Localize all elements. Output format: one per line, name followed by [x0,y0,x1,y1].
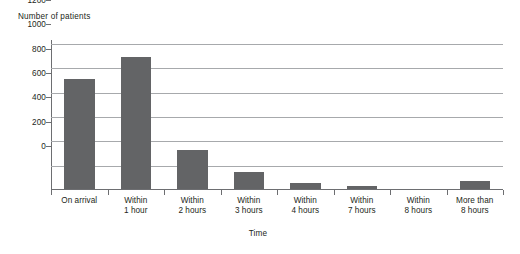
x-axis-tick-mark [108,190,109,195]
x-axis-category-label: Within3 hours [221,196,278,217]
x-axis-category-label-line2: 2 hours [164,206,221,216]
x-axis-category-label-line1: On arrival [61,196,97,205]
x-axis-category-label-line2: 3 hours [221,206,278,216]
y-axis-tick-label: 1000 [27,20,46,29]
y-axis-tick-label: 800 [32,44,46,53]
x-axis-category-label: More than8 hours [447,196,504,217]
y-axis-tick-label: 600 [32,69,46,78]
y-axis-tick-mark [46,0,51,1]
x-axis-category-label: Within2 hours [164,196,221,217]
x-axis-tick-mark [334,190,335,195]
bar[interactable] [64,79,95,190]
bar-slot [390,44,447,190]
x-axis-category-label-line1: Within [181,196,204,205]
x-axis-tick-mark [503,190,504,195]
x-axis-category-label-line1: Within [350,196,373,205]
bar[interactable] [234,172,265,190]
bar-slot [164,44,221,190]
x-axis-category-label: Within1 hour [108,196,165,217]
x-axis-category-label: Within8 hours [390,196,447,217]
bar-slot [447,44,504,190]
y-axis-tick-label: 400 [32,93,46,102]
x-axis-tick-mark [51,190,52,195]
x-axis-category-label-line2: 8 hours [390,206,447,216]
x-axis-category-label: Within4 hours [277,196,334,217]
x-axis-tick-mark [164,190,165,195]
y-axis-tick-labels: 020040060080010001200 [0,0,46,146]
bar[interactable] [177,150,208,190]
bar-slot [221,44,278,190]
x-axis-category-label-line1: Within [237,196,260,205]
y-axis-tick-label: 200 [32,117,46,126]
x-axis-category-label-line1: More than [456,196,493,205]
x-axis-category-label-line2: 1 hour [108,206,165,216]
x-axis-tick-mark [447,190,448,195]
plot-area [51,44,503,190]
bar-slot [108,44,165,190]
bar-slot [277,44,334,190]
x-axis-category-label-line1: Within [124,196,147,205]
x-axis-category-label-line1: Within [407,196,430,205]
x-axis-tick-mark [390,190,391,195]
bar-slot [51,44,108,190]
x-axis-category-label-line2: 8 hours [447,206,504,216]
x-axis-tick-mark [221,190,222,195]
bars-layer [51,44,503,190]
bar[interactable] [121,57,152,190]
x-axis-category-labels: On arrivalWithin1 hourWithin2 hoursWithi… [51,196,503,217]
x-axis-category-label-line1: Within [294,196,317,205]
y-axis-tick-label: 1200 [27,0,46,5]
x-axis-category-label-line2: 7 hours [334,206,391,216]
x-axis-tick-mark [277,190,278,195]
bar-slot [334,44,391,190]
y-axis-tick-mark [46,24,51,25]
x-axis-category-label-line2: 4 hours [277,206,334,216]
x-axis-title: Time [0,229,516,238]
x-axis-category-label: Within7 hours [334,196,391,217]
bar-chart: Number of patients 020040060080010001200… [0,0,520,254]
x-axis-category-label: On arrival [51,196,108,217]
